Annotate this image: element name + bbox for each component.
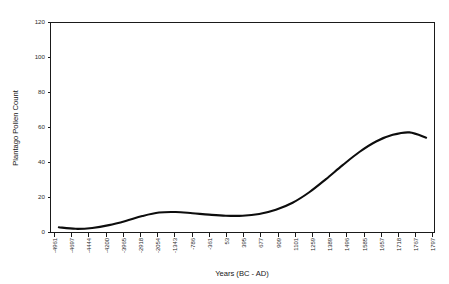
x-axis-title: Years (BC - AD) [215, 269, 269, 278]
chart-container: 120 100 80 60 40 20 0 [0, 0, 449, 284]
x-axis-label-0: -4961 [52, 238, 58, 253]
x-axis-label-20: 1718 [396, 237, 402, 251]
y-axis-label-120: 120 [35, 18, 46, 25]
y-axis-label-20: 20 [38, 193, 45, 200]
x-axis-label-16: 1389 [327, 238, 333, 251]
x-axis-label-4: -3965 [121, 237, 127, 253]
y-axis-title: Plantago Pollen Count [11, 89, 20, 165]
x-axis-label-22: 1797 [430, 238, 436, 251]
y-axis-label-80: 80 [38, 88, 45, 95]
x-axis-label-19: 1657 [379, 238, 385, 251]
x-axis-label-10: 53 [224, 237, 230, 244]
x-axis-label-17: 1496 [344, 237, 350, 251]
x-axis-label-15: 1259 [310, 238, 316, 251]
x-axis-label-9: -361 [207, 238, 213, 250]
x-axis-label-1: -4697 [69, 238, 75, 253]
x-axis-label-13: 909 [276, 238, 282, 248]
y-axis-label-40: 40 [38, 158, 45, 165]
x-axis-label-18: 1585 [362, 237, 368, 251]
x-axis-label-12: 677 [258, 238, 264, 248]
x-axis-label-11: 395 [241, 237, 247, 248]
x-axis-label-21: 1767 [413, 238, 419, 251]
x-axis-label-8: -786 [190, 237, 196, 250]
y-axis-label-60: 60 [38, 123, 45, 130]
x-axis-label-6: -2054 [155, 237, 161, 253]
x-axis-label-3: -4200 [104, 237, 110, 253]
x-axis-label-7: -1343 [172, 237, 178, 253]
plantago-pollen-line-chart: 120 100 80 60 40 20 0 [0, 0, 449, 284]
x-axis-label-14: 1101 [293, 238, 299, 251]
x-axis-label-2: -4444 [86, 237, 92, 253]
y-axis-label-100: 100 [35, 53, 46, 60]
x-axis-label-5: -2918 [138, 237, 144, 253]
y-axis-label-0: 0 [42, 228, 46, 235]
